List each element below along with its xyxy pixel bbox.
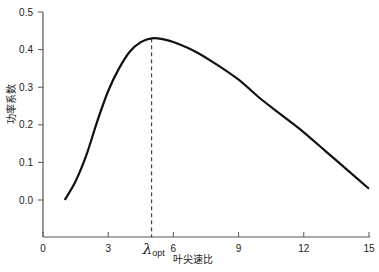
x-tick-label: 9: [236, 243, 242, 254]
power-coefficient-curve: [65, 38, 369, 200]
y-tick-label: 0.3: [19, 82, 33, 93]
y-axis-label: 功率系数: [5, 84, 17, 124]
chart: 0.00.10.20.30.40.5 03λopt691215 叶尖速比 功率系…: [0, 0, 379, 272]
y-tick-label: 0.0: [19, 195, 33, 206]
y-axis-ticks: 0.00.10.20.30.40.5: [19, 7, 43, 206]
axes: [43, 12, 370, 237]
y-tick-label: 0.5: [19, 7, 33, 18]
y-tick-label: 0.1: [19, 157, 33, 168]
lambda-opt-label: λopt: [142, 240, 166, 258]
x-tick-label: 3: [105, 243, 111, 254]
y-tick-label: 0.4: [19, 44, 33, 55]
x-tick-label: 0: [40, 243, 46, 254]
x-tick-label: 6: [171, 243, 177, 254]
x-tick-label: 15: [363, 243, 375, 254]
x-tick-label: 12: [298, 243, 310, 254]
x-axis-label: 叶尖速比: [173, 253, 213, 265]
y-tick-label: 0.2: [19, 119, 33, 130]
